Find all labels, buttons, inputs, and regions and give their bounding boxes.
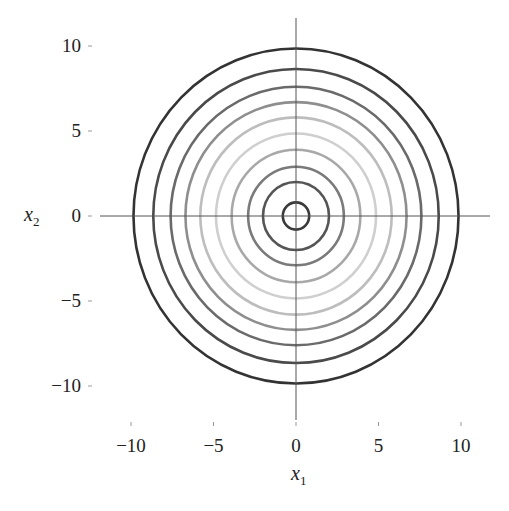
x-tick-label: −5 xyxy=(203,435,223,456)
x-axis-ticks: −10−50510 xyxy=(116,422,470,456)
y-axis-label: x2 xyxy=(23,203,39,229)
y-tick-label: 5 xyxy=(72,120,82,141)
y-tick-label: 10 xyxy=(62,35,81,56)
contour-chart: 1050−5−10 −10−50510 x1 x2 xyxy=(0,0,509,511)
x-tick-label: 10 xyxy=(452,435,471,456)
y-tick-label: 0 xyxy=(72,205,82,226)
x-tick-label: 0 xyxy=(291,435,301,456)
y-axis-ticks: 1050−5−10 xyxy=(51,35,92,396)
y-tick-label: −10 xyxy=(51,375,81,396)
x-tick-label: −10 xyxy=(116,435,146,456)
y-tick-label: −5 xyxy=(61,290,81,311)
x-axis-label: x1 xyxy=(290,462,306,488)
x-tick-label: 5 xyxy=(374,435,384,456)
